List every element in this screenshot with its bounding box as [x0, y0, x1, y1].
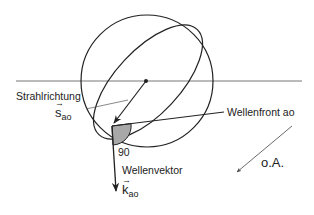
ellipsoid	[75, 8, 220, 157]
angle-wedge	[112, 124, 131, 146]
ray-label-leader	[86, 100, 128, 109]
ray-direction-label: Strahlrichtung	[16, 90, 81, 102]
angle-label: 90	[118, 146, 130, 158]
wave-vector-label: Wellenvektor	[122, 164, 183, 176]
wavefront-label: Wellenfront ao	[227, 106, 295, 118]
ray-vector-symbol: →sao	[55, 103, 72, 121]
vector-arrow-icon: →	[55, 98, 64, 108]
vector-arrow-icon: →	[122, 175, 131, 185]
wave-vector-symbol: →kao	[122, 180, 139, 198]
center-dot	[144, 79, 148, 83]
wavefront-line	[112, 112, 224, 126]
optical-axis-label: o.A.	[261, 155, 284, 170]
